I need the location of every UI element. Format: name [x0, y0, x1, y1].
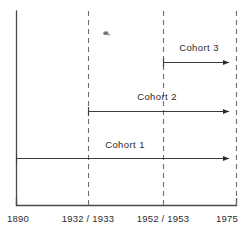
- x-tick-label-1890: 1890: [7, 213, 29, 224]
- cohort-3-arrow: [164, 58, 230, 67]
- x-axis-line: [17, 199, 237, 206]
- cohort-1-arrow: [17, 154, 230, 163]
- cohort-2-arrow: [89, 107, 230, 116]
- x-tick-label-1932-1933: 1932 / 1933: [62, 213, 114, 224]
- x-tick-label-1975: 1975: [216, 213, 238, 224]
- cohort-timeline-canvas: Cohort 3 Cohort 2 Cohort 1 1890 1932 / 1…: [0, 0, 252, 232]
- x-tick-label-1952-1953: 1952 / 1953: [137, 213, 189, 224]
- cohort-1-label: Cohort 1: [105, 139, 145, 150]
- cohort-2-label: Cohort 2: [137, 91, 177, 102]
- cohort-3-label: Cohort 3: [179, 42, 219, 53]
- scan-artifact-speck: [103, 31, 110, 35]
- cohort-timeline-figure: Cohort 3 Cohort 2 Cohort 1 1890 1932 / 1…: [0, 0, 252, 232]
